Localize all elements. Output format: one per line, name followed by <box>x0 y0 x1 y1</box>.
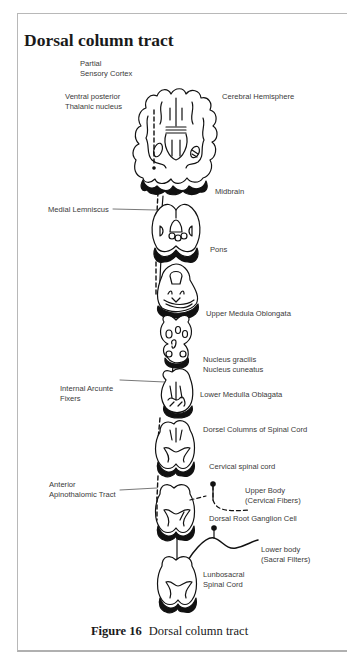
label-cervical-spinal-cord: Cervical spinal cord <box>209 462 275 472</box>
label-partial-sensory-cortex: Partial Sensory Cortex <box>80 59 132 78</box>
label-lumbosacral: Lunbosacral Spinal Cord <box>203 570 244 589</box>
pons-shape <box>157 264 198 318</box>
lower-medulla-shape <box>162 369 193 418</box>
cerebral-hemisphere-shape <box>133 89 217 195</box>
label-lower-body: Lower body (Sacral Filters) <box>261 545 310 564</box>
label-internal-arcuate: Internal Arcunte Fixers <box>60 384 113 403</box>
upper-medulla-shape <box>161 316 192 368</box>
label-lower-medulla: Lower Medulla Oblagata <box>200 390 282 400</box>
label-dorsal-columns: Dorsel Columns of Spinal Cord <box>203 425 307 435</box>
figure-caption-text: Dorsal column tract <box>149 624 248 638</box>
label-medial-lemniscus: Medial Lemniscus <box>48 205 109 215</box>
cervical-cord-section <box>156 485 195 541</box>
lumbosacral-cord-section <box>158 557 197 613</box>
label-pons: Pons <box>210 245 227 255</box>
label-cerebral-hemisphere: Cerebral Hemisphere <box>222 92 294 102</box>
label-ventral-posterior: Ventral posterior Thalanic nucleus <box>65 92 122 111</box>
label-upper-medulla: Upper Medula Oblongata <box>206 309 291 319</box>
dorsal-columns-section <box>156 421 195 477</box>
label-dorsal-root-ganglion: Dorsal Root Ganglion Cell <box>209 514 297 524</box>
midbrain-shape <box>152 204 200 262</box>
label-midbrain: Midbrain <box>215 187 244 197</box>
label-anterior-spinothalamic: Anterior Apinothalomic Tract <box>49 480 116 499</box>
figure-number: Figure 16 <box>91 624 142 638</box>
label-upper-body: Upper Body (Cervical Fibers) <box>245 486 301 505</box>
label-nucleus: Nucleus gracilis Nucleus cuneatus <box>203 355 263 374</box>
figure-caption: Figure 16 Dorsal column tract <box>0 624 339 639</box>
